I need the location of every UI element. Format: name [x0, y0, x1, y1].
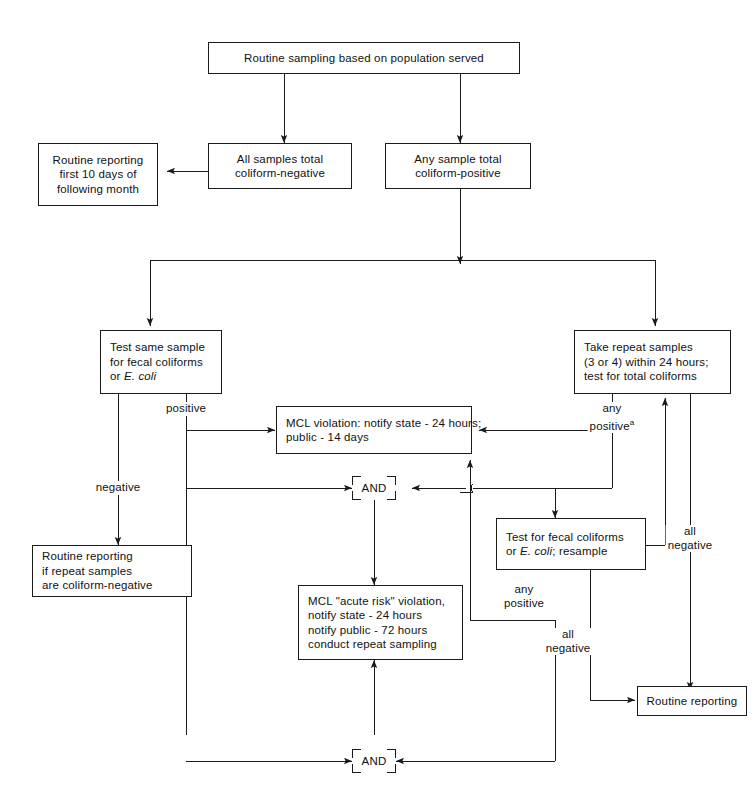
node-test-same-sample-line1: Test same sample	[110, 340, 205, 355]
and-gate-upper[interactable]: AND	[352, 476, 396, 500]
node-routine-sampling[interactable]: Routine sampling based on population ser…	[208, 42, 520, 74]
node-routine-reporting-repeat-line1: Routine reporting	[42, 549, 133, 564]
node-test-fecal-resample-line1: Test for fecal coliforms	[506, 530, 624, 545]
node-routine-reporting-final-line1: Routine reporting	[647, 694, 738, 709]
node-mcl-acute-risk-line1: MCL "acute risk" violation,	[308, 594, 445, 609]
node-any-sample-positive-line2: coliform-positive	[415, 166, 501, 181]
node-routine-reporting-month-line3: following month	[57, 182, 139, 197]
node-routine-reporting-repeat-line3: are coliform-negative	[42, 578, 153, 593]
edge-label-any-positive-a: any positivea	[588, 402, 637, 433]
node-test-fecal-resample-species: E. coli	[520, 545, 552, 557]
node-all-samples-negative-line1: All samples total	[237, 152, 323, 167]
edge-label-positive: positive	[164, 402, 208, 416]
and-gate-lower-label: AND	[352, 749, 396, 773]
node-test-fecal-resample-tail: ; resample	[552, 545, 607, 557]
edge-label-all-negative-mid: all negative	[544, 628, 593, 655]
node-routine-sampling-line1: Routine sampling based on population ser…	[244, 51, 484, 66]
node-all-samples-negative-line2: coliform-negative	[235, 166, 325, 181]
node-routine-reporting-repeat[interactable]: Routine reporting if repeat samples are …	[32, 545, 192, 597]
node-test-same-sample-line3: or E. coli	[110, 369, 156, 384]
node-mcl-acute-risk-line3: notify public - 72 hours	[308, 623, 427, 638]
node-routine-reporting-month[interactable]: Routine reporting first 10 days of follo…	[38, 143, 158, 206]
and-gate-lower[interactable]: AND	[352, 749, 396, 773]
node-any-sample-positive-line1: Any sample total	[414, 152, 501, 167]
node-routine-reporting-month-line1: Routine reporting	[53, 153, 144, 168]
node-routine-reporting-repeat-line2: if repeat samples	[42, 564, 132, 579]
node-mcl-violation[interactable]: MCL violation: notify state - 24 hours; …	[276, 406, 472, 454]
edge-label-all-negative-right: all negative	[666, 525, 715, 552]
node-take-repeat-samples-line3: test for total coliforms	[584, 369, 697, 384]
node-take-repeat-samples[interactable]: Take repeat samples (3 or 4) within 24 h…	[574, 330, 731, 394]
node-any-sample-positive[interactable]: Any sample total coliform-positive	[385, 143, 531, 189]
flowchart-canvas: Routine sampling based on population ser…	[0, 0, 756, 806]
node-mcl-violation-line1: MCL violation: notify state - 24 hours;	[286, 416, 481, 431]
node-test-fecal-resample[interactable]: Test for fecal coliforms or E. coli; res…	[496, 518, 646, 570]
node-test-same-sample-species: E. coli	[124, 370, 156, 382]
node-test-same-sample-line2: for fecal coliforms	[110, 355, 203, 370]
node-take-repeat-samples-line2: (3 or 4) within 24 hours;	[584, 355, 709, 370]
node-take-repeat-samples-line1: Take repeat samples	[584, 340, 693, 355]
node-test-fecal-resample-or: or	[506, 545, 520, 557]
node-test-same-sample[interactable]: Test same sample for fecal coliforms or …	[100, 330, 222, 394]
node-mcl-acute-risk[interactable]: MCL "acute risk" violation, notify state…	[298, 585, 463, 660]
node-mcl-acute-risk-line4: conduct repeat sampling	[308, 637, 437, 652]
and-gate-upper-label: AND	[352, 476, 396, 500]
node-routine-reporting-final[interactable]: Routine reporting	[637, 686, 747, 716]
node-test-fecal-resample-line2: or E. coli; resample	[506, 544, 607, 559]
node-test-same-sample-or: or	[110, 370, 124, 382]
node-mcl-acute-risk-line2: notify state - 24 hours	[308, 608, 422, 623]
edge-label-any-positive-mid: any positive	[502, 583, 546, 610]
node-mcl-violation-line2: public - 14 days	[286, 430, 369, 445]
node-all-samples-negative[interactable]: All samples total coliform-negative	[208, 143, 352, 189]
edge-label-negative: negative	[94, 481, 143, 495]
node-routine-reporting-month-line2: first 10 days of	[59, 167, 136, 182]
